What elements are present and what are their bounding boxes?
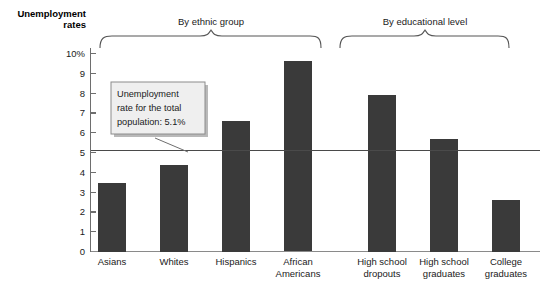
x-tick-label-asians: Asians: [98, 256, 127, 267]
educational-level-brace: [340, 30, 509, 48]
ethnic-group-brace: [100, 30, 321, 48]
y-tick-label-9: 9: [80, 68, 85, 79]
bar-african-americans: [284, 61, 312, 251]
x-tick-label-high-school-graduates-line2: graduates: [423, 268, 466, 279]
x-axis-tick-labels: Asians Whites Hispanics African American…: [98, 256, 528, 279]
callout-text-line3: population: 5.1%: [117, 117, 185, 127]
bar-high-school-graduates: [430, 139, 458, 252]
y-tick-label-8: 8: [80, 88, 85, 99]
y-axis-title-line2: rates: [63, 19, 86, 30]
y-tick-label-6: 6: [80, 127, 85, 138]
unemployment-bar-chart: Unemployment rates 10% 9 8 7 6 5 4: [0, 0, 553, 295]
y-axis-tick-labels: 10% 9 8 7 6 5 4 3 2 1 0: [66, 48, 86, 257]
callout-text-line2: rate for the total: [117, 103, 181, 113]
x-tick-label-college-graduates-line2: graduates: [485, 268, 528, 279]
y-tick-label-1: 1: [80, 226, 85, 237]
bar-high-school-dropouts: [368, 95, 396, 252]
x-tick-label-high-school-dropouts-line1: High school: [357, 256, 407, 267]
x-tick-label-hispanics: Hispanics: [215, 256, 256, 267]
x-tick-label-whites: Whites: [159, 256, 188, 267]
x-tick-label-african-americans-line2: Americans: [276, 268, 321, 279]
callout-text-line1: Unemployment: [117, 89, 179, 99]
y-tick-label-5: 5: [80, 147, 85, 158]
x-tick-label-college-graduates-line1: College: [490, 256, 522, 267]
bar-college-graduates: [492, 200, 520, 252]
bar-hispanics: [222, 121, 250, 252]
y-axis-title-line1: Unemployment: [17, 8, 86, 19]
x-tick-label-high-school-graduates-line1: High school: [419, 256, 469, 267]
educational-level-brace-label: By educational level: [383, 16, 468, 27]
chart-figure: Unemployment rates 10% 9 8 7 6 5 4: [0, 0, 553, 295]
x-tick-label-african-americans-line1: African: [283, 256, 313, 267]
bar-whites: [160, 165, 188, 252]
bar-asians: [98, 183, 126, 252]
x-tick-label-high-school-dropouts-line2: dropouts: [364, 268, 401, 279]
y-tick-label-0: 0: [80, 246, 85, 257]
y-tick-label-10: 10%: [66, 48, 86, 59]
y-tick-label-3: 3: [80, 187, 85, 198]
y-tick-label-2: 2: [80, 206, 85, 217]
y-tick-label-7: 7: [80, 107, 85, 118]
y-tick-label-4: 4: [80, 167, 85, 178]
ethnic-group-brace-label: By ethnic group: [178, 16, 244, 27]
